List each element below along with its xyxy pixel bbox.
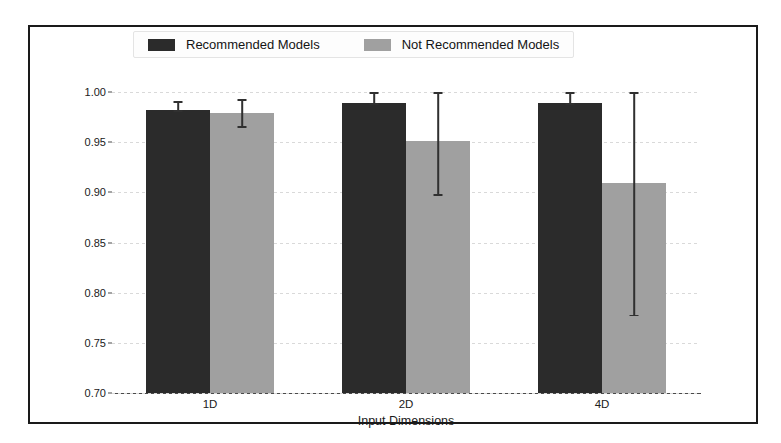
bar-4d-series0 [538, 103, 602, 393]
legend-label-recommended: Recommended Models [186, 37, 320, 52]
bar-1d-series0 [146, 110, 210, 393]
y-tick-mark [108, 393, 112, 394]
error-cap-2d-series0-top [370, 92, 379, 94]
bar-1d-series1 [210, 113, 274, 393]
error-bar-4d-series1 [633, 92, 635, 315]
legend-entry-recommended: Recommended Models [148, 37, 320, 52]
error-cap-2d-series0-bottom [370, 103, 379, 105]
y-tick-label: 0.70 [85, 387, 106, 399]
y-axis-ticks: 0.700.750.800.850.900.951.00 [58, 0, 106, 443]
legend-swatch-not-recommended [364, 39, 391, 51]
bar-2d-series0 [342, 103, 406, 393]
x-tick-label-2d: 2D [399, 398, 414, 410]
y-tick-label: 0.75 [85, 337, 106, 349]
error-cap-4d-series0-top [566, 92, 575, 94]
error-cap-1d-series1-bottom [238, 126, 247, 128]
error-cap-4d-series1-top [630, 92, 639, 94]
y-tick-label: 1.00 [85, 86, 106, 98]
error-cap-2d-series1-bottom [434, 194, 443, 196]
gridline [112, 393, 700, 394]
y-tick-mark [108, 292, 112, 293]
x-axis-label: Input Dimensions [358, 414, 455, 428]
error-cap-1d-series1-top [238, 99, 247, 101]
plot-area [112, 92, 700, 393]
gridline [112, 92, 700, 93]
error-cap-4d-series0-bottom [566, 103, 575, 105]
error-bar-2d-series0 [373, 92, 375, 103]
x-tick-label-4d: 4D [595, 398, 610, 410]
y-tick-label: 0.85 [85, 237, 106, 249]
error-bar-2d-series1 [437, 92, 439, 194]
y-tick-label: 0.90 [85, 186, 106, 198]
legend-entry-not-recommended: Not Recommended Models [364, 37, 560, 52]
figure-canvas: Recommended Models Not Recommended Model… [0, 0, 781, 443]
y-tick-mark [108, 92, 112, 93]
y-tick-mark [108, 342, 112, 343]
chart-legend: Recommended Models Not Recommended Model… [133, 31, 574, 58]
y-tick-label: 0.95 [85, 136, 106, 148]
legend-label-not-recommended: Not Recommended Models [402, 37, 560, 52]
error-bar-4d-series0 [569, 92, 571, 103]
error-cap-1d-series0-top [174, 101, 183, 103]
error-cap-2d-series1-top [434, 92, 443, 94]
y-tick-mark [108, 192, 112, 193]
error-cap-4d-series1-bottom [630, 315, 639, 317]
x-tick-label-1d: 1D [203, 398, 218, 410]
legend-swatch-recommended [148, 39, 175, 51]
y-tick-mark [108, 242, 112, 243]
y-tick-mark [108, 142, 112, 143]
y-tick-label: 0.80 [85, 287, 106, 299]
error-cap-1d-series0-bottom [174, 110, 183, 112]
error-bar-1d-series1 [241, 99, 243, 126]
